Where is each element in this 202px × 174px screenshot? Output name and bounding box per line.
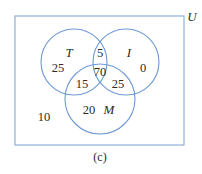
figure-caption: (c) <box>93 151 106 163</box>
region-i-and-m-only: 25 <box>112 78 125 90</box>
set-label-i: I <box>127 47 131 59</box>
region-outside: 10 <box>38 111 51 123</box>
region-t-and-m-only: 15 <box>76 78 89 90</box>
set-label-m: M <box>104 104 115 116</box>
region-t-and-i-only: 5 <box>97 47 103 59</box>
region-t-i-m: 70 <box>94 66 107 78</box>
venn-diagram <box>0 0 202 174</box>
region-m-only: 20 <box>83 104 96 116</box>
region-i-only: 0 <box>140 62 146 74</box>
universe-label: U <box>187 11 196 23</box>
set-circle-i <box>93 29 159 95</box>
region-t-only: 25 <box>52 62 65 74</box>
set-label-t: T <box>65 47 72 59</box>
universe-rectangle <box>15 16 184 145</box>
